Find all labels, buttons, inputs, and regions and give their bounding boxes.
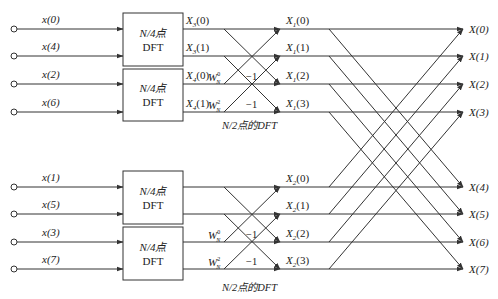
block-output-label: X4(0) bbox=[185, 69, 209, 84]
final-output-label: X(5) bbox=[468, 208, 489, 221]
input-node bbox=[11, 211, 17, 217]
final-output-label: X(1) bbox=[468, 50, 489, 63]
dft-block-subtitle: DFT bbox=[143, 96, 164, 108]
dft-block-title: N/4点 bbox=[139, 185, 169, 197]
dft-block-title: N/4点 bbox=[139, 82, 169, 94]
stage2-output-label: X1(1) bbox=[285, 41, 309, 56]
stage2-output-label: X2(2) bbox=[285, 227, 309, 242]
wires bbox=[11, 26, 463, 272]
twiddle-factor: W2N bbox=[208, 99, 221, 113]
fft-diagram-canvas: x(0)x(4)x(2)x(6)x(1)x(5)x(3)x(7)N/4点DFTN… bbox=[0, 0, 498, 299]
block-output-label: X3(0) bbox=[185, 14, 209, 29]
block-output-label: X3(1) bbox=[185, 41, 209, 56]
dft-block-subtitle: DFT bbox=[143, 41, 164, 53]
input-label-7: x(7) bbox=[41, 253, 60, 266]
stage2-output-label: X2(3) bbox=[285, 254, 309, 269]
input-label-6: x(3) bbox=[41, 226, 60, 239]
input-node bbox=[11, 239, 17, 245]
stage2-output-label: X1(0) bbox=[285, 14, 309, 29]
final-output-label: X(6) bbox=[468, 236, 489, 249]
input-label-3: x(6) bbox=[41, 96, 60, 109]
input-node bbox=[11, 184, 17, 190]
stage2-output-label: X2(0) bbox=[285, 172, 309, 187]
fft-flow-graph: x(0)x(4)x(2)x(6)x(1)x(5)x(3)x(7)N/4点DFTN… bbox=[0, 0, 498, 299]
minus-one-label: −1 bbox=[246, 99, 257, 110]
input-label-4: x(1) bbox=[41, 171, 60, 184]
minus-one-label: −1 bbox=[246, 256, 257, 267]
input-node bbox=[11, 53, 17, 59]
input-label-5: x(5) bbox=[41, 198, 60, 211]
final-output-label: X(3) bbox=[468, 106, 489, 119]
final-output-label: X(7) bbox=[468, 263, 489, 276]
dft-block-title: N/4点 bbox=[139, 241, 169, 253]
stage2-caption-lower: N/2点的DFT bbox=[221, 282, 278, 293]
input-label-2: x(2) bbox=[41, 68, 60, 81]
stage2-output-label: X1(3) bbox=[285, 97, 309, 112]
n4-dft-block bbox=[123, 171, 183, 224]
minus-one-label: −1 bbox=[246, 71, 257, 82]
twiddle-factor: W0N bbox=[208, 229, 221, 243]
input-node bbox=[11, 26, 17, 32]
twiddle-factor: W0N bbox=[208, 71, 221, 85]
input-label-0: x(0) bbox=[41, 13, 60, 26]
input-label-1: x(4) bbox=[41, 40, 60, 53]
final-output-label: X(2) bbox=[468, 78, 489, 91]
dft-block-subtitle: DFT bbox=[143, 255, 164, 267]
input-node bbox=[11, 81, 17, 87]
minus-one-label: −1 bbox=[246, 229, 257, 240]
dft-block-title: N/4点 bbox=[139, 27, 169, 39]
dft-block-subtitle: DFT bbox=[143, 199, 164, 211]
twiddle-factor: W2N bbox=[208, 256, 221, 270]
final-output-label: X(4) bbox=[468, 181, 489, 194]
stage2-output-label: X1(2) bbox=[285, 69, 309, 84]
n4-dft-block bbox=[123, 227, 183, 280]
n4-dft-block bbox=[123, 69, 183, 121]
labels: x(0)x(4)x(2)x(6)x(1)x(5)x(3)x(7)N/4点DFTN… bbox=[41, 13, 489, 293]
input-node bbox=[11, 109, 17, 115]
final-output-label: X(0) bbox=[468, 23, 489, 36]
stage2-output-label: X2(1) bbox=[285, 199, 309, 214]
block-output-label: X4(1) bbox=[185, 97, 209, 112]
input-node bbox=[11, 266, 17, 272]
n4-dft-block bbox=[123, 13, 183, 66]
stage2-caption-upper: N/2点的DFT bbox=[221, 120, 278, 131]
